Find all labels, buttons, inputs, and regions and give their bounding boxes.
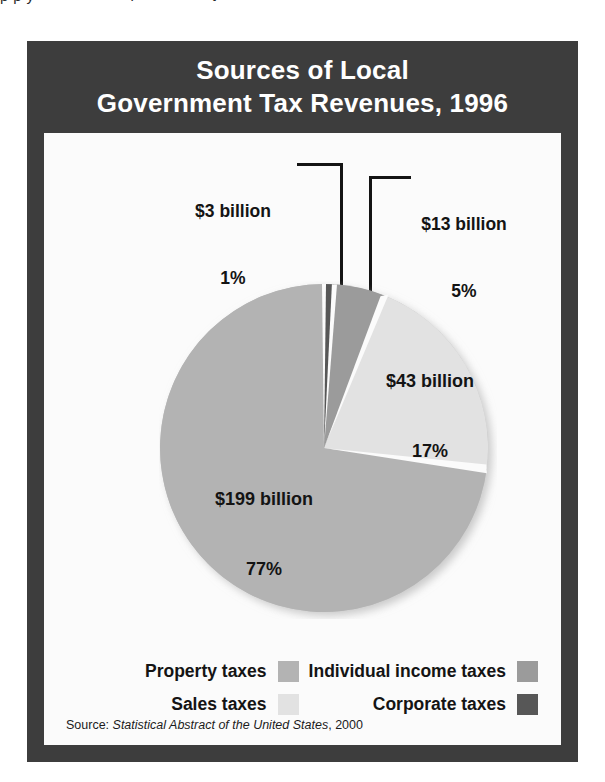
source-prefix: Source: [66,718,113,732]
legend-label-property-taxes: Property taxes [145,661,267,682]
source-note: Source: Statistical Abstract of the Unit… [66,718,363,732]
figure-title-line-1: Sources of Local [196,54,409,87]
legend-swatch-sales-taxes [278,694,299,715]
figure-title: Sources of Local Government Tax Revenues… [27,41,578,133]
slice-label-sales-taxes: $43 billion 17% [360,323,500,510]
page-text-bleed-glyphs: p p y i t [0,0,216,4]
figure-title-line-2: Government Tax Revenues, 1996 [97,87,508,120]
slice-label-property-taxes: $199 billion 77% [184,441,344,628]
source-publication: Statistical Abstract of the United State… [113,718,329,732]
legend: Property taxes Individual income taxes S… [70,661,538,715]
figure-frame: Sources of Local Government Tax Revenues… [27,41,578,762]
chart-panel: $3 billion 1% $13 billion 5% [44,133,561,745]
legend-label-corporate-taxes: Corporate taxes [373,694,506,715]
slice-label-property-taxes-amount: $199 billion [184,488,344,511]
slice-label-sales-taxes-percent: 17% [360,440,500,463]
slice-label-property-taxes-percent: 77% [184,558,344,581]
slice-label-sales-taxes-amount: $43 billion [360,370,500,393]
source-suffix: , 2000 [328,718,363,732]
legend-label-individual-income-taxes: Individual income taxes [309,661,506,682]
callout-corporate-amount: $3 billion [174,200,292,222]
legend-swatch-individual-income-taxes [517,661,538,682]
leader-line-corporate-horizontal [297,163,343,166]
legend-item-sales-taxes: Sales taxes [70,694,299,715]
legend-swatch-property-taxes [278,661,299,682]
legend-item-corporate-taxes: Corporate taxes [309,694,538,715]
legend-swatch-corporate-taxes [517,694,538,715]
legend-item-individual-income-taxes: Individual income taxes [309,661,538,682]
page-text-bleed: p p y i t [0,0,605,26]
legend-label-sales-taxes: Sales taxes [171,694,266,715]
legend-item-property-taxes: Property taxes [70,661,299,682]
callout-individual-income-amount: $13 billion [404,213,524,235]
